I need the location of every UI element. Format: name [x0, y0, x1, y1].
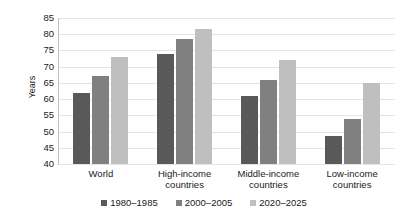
bar[interactable] [176, 39, 193, 164]
y-tick-label: 80 [28, 29, 54, 39]
x-axis-labels: WorldHigh-incomecountriesMiddle-incomeco… [59, 168, 394, 190]
y-axis-ticks: 85807570656055504540 [22, 18, 54, 164]
bar[interactable] [260, 80, 277, 164]
bar[interactable] [111, 57, 128, 164]
bar[interactable] [325, 136, 342, 164]
legend-swatch-icon [250, 200, 256, 206]
legend-label: 2000–2005 [185, 198, 233, 208]
chart-legend: 1980–19852000–20052020–2025 [0, 198, 408, 208]
bar[interactable] [363, 83, 380, 164]
bar[interactable] [157, 54, 174, 164]
bar[interactable] [73, 93, 90, 164]
bar[interactable] [195, 29, 212, 164]
legend-item[interactable]: 2000–2005 [176, 198, 233, 208]
y-tick-label: 70 [28, 62, 54, 72]
x-axis-label: Low-incomecountries [310, 168, 394, 190]
x-axis-label: Middle-incomecountries [227, 168, 311, 190]
x-axis-label-line: Low-income [310, 168, 394, 179]
x-axis-label-line: countries [227, 179, 311, 190]
y-tick-label: 75 [28, 45, 54, 55]
bar-groups [59, 18, 394, 164]
legend-item[interactable]: 2020–2025 [250, 198, 307, 208]
x-axis-label: High-incomecountries [143, 168, 227, 190]
y-tick-label: 55 [28, 110, 54, 120]
y-tick-label: 65 [28, 78, 54, 88]
bar-chart: Years 85807570656055504540 WorldHigh-inc… [0, 0, 408, 224]
bar-group [227, 18, 311, 164]
y-tick-label: 45 [28, 143, 54, 153]
bar[interactable] [279, 60, 296, 164]
x-axis-label-line: countries [143, 179, 227, 190]
bar-group [143, 18, 227, 164]
legend-swatch-icon [176, 200, 182, 206]
bar[interactable] [344, 119, 361, 164]
y-tick-label: 50 [28, 127, 54, 137]
x-axis-label-line: High-income [143, 168, 227, 179]
legend-label: 1980–1985 [110, 198, 158, 208]
legend-item[interactable]: 1980–1985 [101, 198, 158, 208]
gridline [59, 164, 395, 165]
legend-swatch-icon [101, 200, 107, 206]
x-axis-label-line: World [59, 168, 143, 179]
bar-group [59, 18, 143, 164]
y-tick-label: 60 [28, 94, 54, 104]
x-axis-label: World [59, 168, 143, 190]
bar[interactable] [241, 96, 258, 164]
bar[interactable] [92, 76, 109, 164]
legend-label: 2020–2025 [259, 198, 307, 208]
y-tick-label: 40 [28, 159, 54, 169]
x-axis-label-line: Middle-income [227, 168, 311, 179]
bar-group [310, 18, 394, 164]
x-axis-label-line: countries [310, 179, 394, 190]
y-tick-label: 85 [28, 13, 54, 23]
